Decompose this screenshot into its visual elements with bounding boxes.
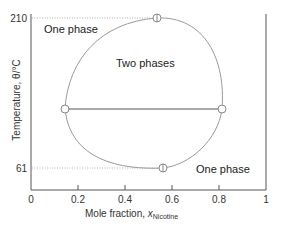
phase-boundary-curve [65, 18, 222, 168]
y-axis-title: Temperature, θ/°C [11, 59, 22, 140]
x-tick-0.6: 0.6 [165, 194, 179, 205]
label-two-phases: Two phases [116, 57, 175, 69]
x-tick-0.2: 0.2 [71, 194, 85, 205]
x-tick-0: 0 [28, 194, 34, 205]
x-axis-title: Mole fraction, xNicotine [85, 208, 178, 220]
y-tick-61: 61 [16, 163, 28, 174]
label-one-phase-lower: One phase [196, 163, 250, 175]
tie-line-right-marker [218, 105, 226, 113]
y-tick-210: 210 [10, 13, 27, 24]
x-tick-0.8: 0.8 [212, 194, 226, 205]
x-ticks [78, 185, 219, 190]
upper-critical-point-marker [153, 14, 161, 22]
label-one-phase-upper: One phase [44, 23, 98, 35]
phase-diagram-chart: 210 61 0 0.2 0.4 0.6 0.8 1 One phase Two… [0, 0, 285, 227]
x-tick-1: 1 [263, 194, 269, 205]
tie-line-left-marker [61, 105, 69, 113]
lower-critical-point-marker [159, 164, 167, 172]
x-tick-0.4: 0.4 [118, 194, 132, 205]
